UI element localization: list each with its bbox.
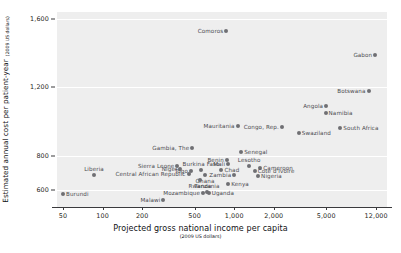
plot-area: ComorosGabonBotswanaAngolaNamibiaMaurita… xyxy=(57,12,387,207)
gridline xyxy=(57,19,387,20)
data-point[interactable] xyxy=(199,168,203,172)
data-point-label: South Africa xyxy=(343,125,378,131)
data-point[interactable] xyxy=(226,182,230,186)
y-axis-title: Estimated annual cost per patient-year (… xyxy=(0,12,10,207)
data-point[interactable] xyxy=(198,178,202,182)
x-axis-tick-mark xyxy=(142,207,143,210)
data-point[interactable] xyxy=(187,172,191,176)
y-axis-title-main: Estimated annual cost per patient-year xyxy=(1,59,10,203)
data-point-label: Botswana xyxy=(337,88,365,94)
data-point[interactable] xyxy=(373,53,377,57)
x-axis-tick-label: 50 xyxy=(59,212,67,220)
data-point-label: Lesotho xyxy=(238,157,261,163)
data-point[interactable] xyxy=(92,173,96,177)
y-axis-tick-mark xyxy=(51,87,55,88)
x-axis-tick-mark xyxy=(103,207,104,210)
data-point[interactable] xyxy=(161,198,165,202)
data-point[interactable] xyxy=(338,126,342,130)
data-point-label: Burkina Faso xyxy=(183,161,220,167)
data-point-label: Nigeria xyxy=(261,173,282,179)
data-point[interactable] xyxy=(253,169,257,173)
x-axis-tick-label: 2,000 xyxy=(264,212,283,220)
data-point[interactable] xyxy=(256,174,260,178)
data-point[interactable] xyxy=(297,131,301,135)
x-axis-tick-mark xyxy=(326,207,327,210)
x-axis-tick-label: 500 xyxy=(188,212,201,220)
y-axis-tick-label: 1,600 xyxy=(30,15,49,23)
data-point-label: Angola xyxy=(303,103,323,109)
y-axis-tick-label: 1,200 xyxy=(30,83,49,91)
data-point-label: Comoros xyxy=(198,28,224,34)
scatter-chart-figure: ComorosGabonBotswanaAngolaNamibiaMaurita… xyxy=(0,0,401,253)
data-point-label: Zambia xyxy=(209,172,231,178)
data-point[interactable] xyxy=(280,125,284,129)
data-point[interactable] xyxy=(207,191,211,195)
data-point-label: Burundi xyxy=(66,191,89,197)
x-axis-tick-label: 5,000 xyxy=(317,212,336,220)
y-axis-title-sub: (2009 US dollars) xyxy=(5,16,10,56)
y-axis-tick-mark xyxy=(51,18,55,19)
data-point[interactable] xyxy=(324,104,328,108)
y-axis-tick-label: 600 xyxy=(36,186,49,194)
data-point[interactable] xyxy=(226,162,230,166)
y-axis-tick-label: 800 xyxy=(36,152,49,160)
x-axis-tick-label: 1,000 xyxy=(225,212,244,220)
x-axis-tick-mark xyxy=(195,207,196,210)
x-axis-tick-label: 200 xyxy=(136,212,149,220)
x-axis-tick-mark xyxy=(274,207,275,210)
data-point-label: Senegal xyxy=(244,149,267,155)
x-axis-title-main: Projected gross national income per capi… xyxy=(0,224,401,233)
data-point[interactable] xyxy=(239,150,243,154)
data-point[interactable] xyxy=(61,192,65,196)
data-point-label: Congo, Rep. xyxy=(244,124,279,130)
data-point-label: Tanzania xyxy=(194,183,219,189)
data-point-label: Gambia, The xyxy=(152,145,189,151)
x-axis-tick-label: 100 xyxy=(96,212,109,220)
data-point[interactable] xyxy=(236,124,240,128)
x-axis-tick-mark xyxy=(234,207,235,210)
data-point[interactable] xyxy=(224,29,228,33)
data-point[interactable] xyxy=(232,173,236,177)
data-point-label: Mauritania xyxy=(204,123,235,129)
x-axis-tick-mark xyxy=(376,207,377,210)
data-point[interactable] xyxy=(247,164,251,168)
y-axis-tick-mark xyxy=(51,189,55,190)
x-axis-tick-label: 12,000 xyxy=(365,212,388,220)
data-point-label: Swaziland xyxy=(302,130,331,136)
data-point[interactable] xyxy=(367,89,371,93)
data-point-label: Namibia xyxy=(329,110,353,116)
data-point-label: Gabon xyxy=(353,52,372,58)
data-point[interactable] xyxy=(203,173,207,177)
x-axis-title-sub: (2009 US dollars) xyxy=(0,234,401,239)
y-axis-tick-mark xyxy=(51,155,55,156)
data-point-label: Central African Republic xyxy=(116,171,186,177)
x-axis-tick-mark xyxy=(63,207,64,210)
data-point-label: Kenya xyxy=(231,181,249,187)
data-point-label: Liberia xyxy=(84,166,104,172)
data-point-label: Uganda xyxy=(212,190,234,196)
data-point-label: Mozambique xyxy=(163,190,200,196)
x-axis-title: Projected gross national income per capi… xyxy=(0,224,401,239)
data-point[interactable] xyxy=(190,146,194,150)
data-point-label: Malawi xyxy=(140,197,160,203)
data-point[interactable] xyxy=(324,111,328,115)
data-point[interactable] xyxy=(201,191,205,195)
